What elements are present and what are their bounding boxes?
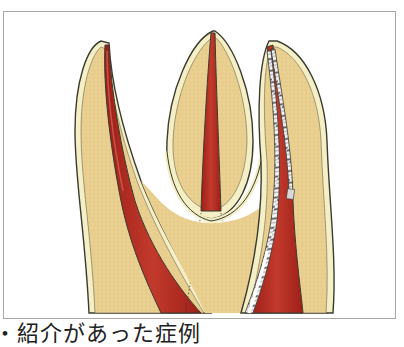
figure-caption: ・紹介があった症例: [0, 321, 201, 347]
tooth-illustration: [4, 12, 396, 319]
figure-frame: [3, 11, 396, 319]
